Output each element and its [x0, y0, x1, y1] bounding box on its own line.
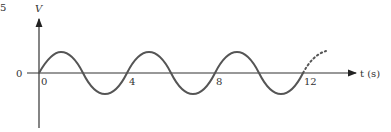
origin-left-label: 0: [16, 68, 22, 79]
tick-label-0: 0: [41, 76, 47, 87]
tick-label-8: 8: [216, 76, 222, 87]
tick-label-12: 12: [304, 76, 317, 87]
voltage-time-diagram: 5 V t (s) 0 0 4 8 12: [0, 0, 391, 132]
y-axis-label: V: [35, 3, 44, 14]
dotted-continuation: [303, 51, 326, 73]
corner-fragment: 5: [0, 2, 6, 13]
tick-label-4: 4: [129, 76, 135, 87]
x-axis-label: t (s): [360, 68, 380, 79]
